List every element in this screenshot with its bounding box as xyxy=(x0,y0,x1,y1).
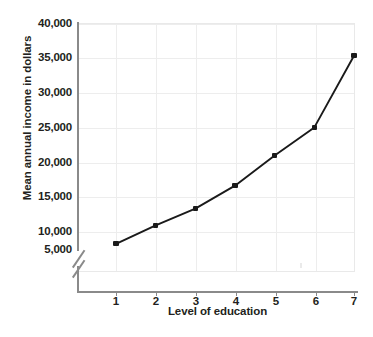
data-point-marker xyxy=(113,241,118,246)
data-point-marker xyxy=(193,206,198,211)
data-series xyxy=(0,0,373,337)
data-point-marker xyxy=(272,153,277,158)
chart-figure: Mean annual income in dollars 40,000 35,… xyxy=(0,0,373,337)
data-point-marker xyxy=(232,183,237,188)
series-line xyxy=(0,0,373,337)
x-axis-title: Level of education xyxy=(75,305,360,317)
data-point-marker xyxy=(153,223,158,228)
data-point-marker xyxy=(312,125,317,130)
data-point-marker xyxy=(351,53,356,58)
